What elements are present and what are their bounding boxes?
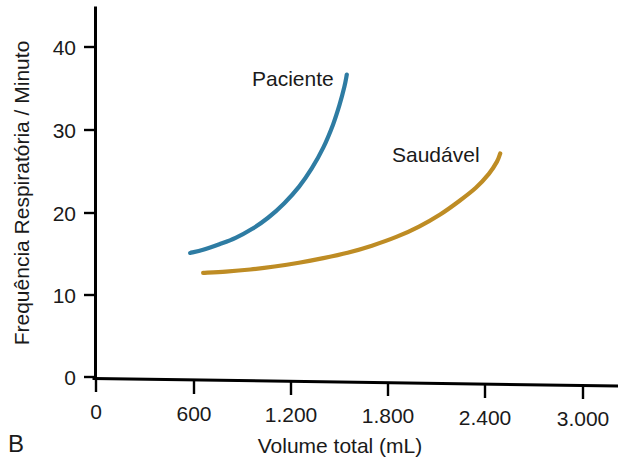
x-axis-line [94, 379, 618, 387]
series-annotation-paciente: Paciente [252, 67, 334, 90]
series-line-paciente [190, 75, 347, 253]
chart-svg: 40 30 20 10 0 0 600 1.200 1.800 2.400 3.… [0, 0, 618, 460]
y-tick-label-30: 30 [53, 119, 76, 142]
x-tick-label-0: 0 [90, 400, 102, 423]
y-tick-label-40: 40 [53, 36, 76, 59]
panel-label: B [8, 430, 24, 457]
y-tick-labels: 40 30 20 10 0 [53, 36, 76, 389]
x-tick-label-2400: 2.400 [459, 406, 512, 429]
y-tick-label-20: 20 [53, 202, 76, 225]
x-axis-title: Volume total (mL) [258, 434, 423, 457]
x-tick-label-600: 600 [176, 402, 211, 425]
x-tick-labels: 0 600 1.200 1.800 2.400 3.000 [90, 400, 609, 430]
data-curves [190, 75, 500, 273]
x-tick-label-3000: 3.000 [557, 407, 610, 430]
axes [94, 8, 618, 386]
y-tick-marks [84, 47, 95, 377]
y-tick-label-10: 10 [53, 284, 76, 307]
y-axis-title: Frequência Respiratória / Minuto [10, 41, 33, 346]
y-tick-label-0: 0 [64, 366, 76, 389]
x-tick-label-1800: 1.800 [362, 404, 415, 427]
figure-panel-b: 40 30 20 10 0 0 600 1.200 1.800 2.400 3.… [0, 0, 618, 460]
series-annotation-saudavel: Saudável [392, 143, 480, 166]
x-tick-label-1200: 1.200 [265, 403, 318, 426]
series-line-saudavel [203, 153, 500, 272]
